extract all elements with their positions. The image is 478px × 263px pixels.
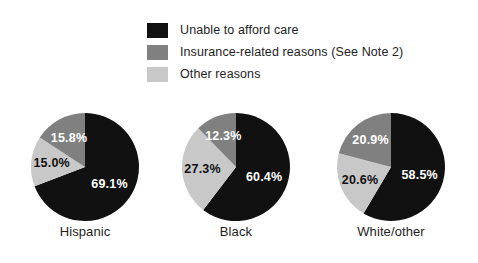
pie-slice-label: 12.3% — [205, 129, 241, 143]
legend-item: Other reasons — [147, 63, 467, 85]
pie-slice-label: 15.0% — [33, 156, 69, 170]
legend-item: Unable to afford care — [147, 19, 467, 41]
legend-item-label: Unable to afford care — [180, 23, 299, 37]
legend-swatch-other-reasons — [147, 67, 168, 82]
pie-caption-black: Black — [161, 224, 311, 239]
pie-svg: 58.5%20.6%20.9% — [336, 112, 446, 222]
pie-slice-label: 69.1% — [91, 177, 127, 191]
pie-svg: 60.4%27.3%12.3% — [181, 112, 291, 222]
pie-canvas: 60.4%27.3%12.3% — [181, 112, 291, 222]
pie-chart-black: 60.4%27.3%12.3% Black — [161, 112, 311, 239]
legend-item-label: Insurance-related reasons (See Note 2) — [180, 45, 403, 59]
pie-slice-label: 60.4% — [246, 170, 282, 184]
pie-slice-label: 27.3% — [184, 162, 220, 176]
pie-chart-hispanic: 69.1%15.0%15.8% Hispanic — [10, 112, 160, 239]
pie-caption-hispanic: Hispanic — [10, 224, 160, 239]
pie-slice-label: 20.6% — [342, 173, 378, 187]
pie-chart-row: 69.1%15.0%15.8% Hispanic 60.4%27.3%12.3%… — [0, 112, 478, 252]
pie-svg: 69.1%15.0%15.8% — [30, 112, 140, 222]
chart-legend: Unable to afford care Insurance-related … — [147, 19, 467, 85]
legend-item-label: Other reasons — [180, 67, 261, 81]
legend-swatch-unable-to-afford-care — [147, 23, 168, 38]
pie-chart-white-other: 58.5%20.6%20.9% White/other — [316, 112, 466, 239]
legend-swatch-insurance-related-reasons — [147, 45, 168, 60]
pie-canvas: 69.1%15.0%15.8% — [30, 112, 140, 222]
pie-canvas: 58.5%20.6%20.9% — [336, 112, 446, 222]
pie-slice-label: 58.5% — [401, 168, 437, 182]
pie-slice-label: 20.9% — [352, 133, 388, 147]
pie-caption-white-other: White/other — [316, 224, 466, 239]
pie-slice-label: 15.8% — [51, 131, 87, 145]
legend-item: Insurance-related reasons (See Note 2) — [147, 41, 467, 63]
